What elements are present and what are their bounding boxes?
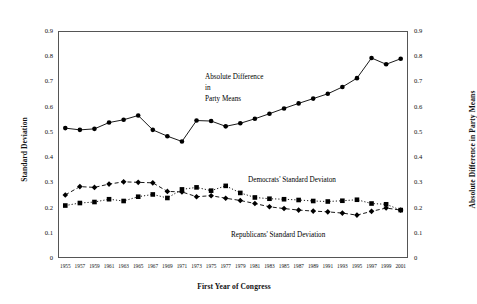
absolute-difference-label-line: Party Means xyxy=(205,94,263,105)
y-tick-right-0.8: 0.8 xyxy=(414,52,436,59)
y-tick-right-0.7: 0.7 xyxy=(414,77,436,84)
y-tick-left-0: 0 xyxy=(33,254,53,261)
y-tick-right-0.6: 0.6 xyxy=(414,103,436,110)
y-axis-right-title: Absolute Difference in Party Means xyxy=(468,75,477,225)
x-axis-title: First Year of Congress xyxy=(0,282,468,291)
democrats-label: Democrats' Standard Deviaton xyxy=(248,176,336,184)
y-tick-left-0.6: 0.6 xyxy=(33,103,53,110)
x-tick-2001: 2001 xyxy=(390,263,412,269)
y-axis-left-title: Standard Deviation xyxy=(20,95,29,205)
y-tick-right-0.9: 0.9 xyxy=(414,27,436,34)
republicans-label: Republicans' Standard Deviation xyxy=(231,231,325,239)
absolute-difference-label-line: Absolute Difference xyxy=(205,72,263,83)
y-tick-left-0.4: 0.4 xyxy=(33,153,53,160)
y-tick-right-0.3: 0.3 xyxy=(414,178,436,185)
y-tick-left-0.5: 0.5 xyxy=(33,128,53,135)
y-tick-right-0: 0 xyxy=(414,254,436,261)
plot-area xyxy=(58,31,408,258)
y-tick-right-0.1: 0.1 xyxy=(414,229,436,236)
y-tick-left-0.7: 0.7 xyxy=(33,77,53,84)
y-tick-left-0.2: 0.2 xyxy=(33,204,53,211)
absolute-difference-label: Absolute DifferenceinParty Means xyxy=(205,72,263,105)
y-tick-right-0.2: 0.2 xyxy=(414,204,436,211)
y-tick-right-0.4: 0.4 xyxy=(414,153,436,160)
absolute-difference-label-line: in xyxy=(205,83,263,94)
y-tick-left-0.9: 0.9 xyxy=(33,27,53,34)
y-tick-left-0.3: 0.3 xyxy=(33,178,53,185)
y-tick-right-0.5: 0.5 xyxy=(414,128,436,135)
y-tick-left-0.8: 0.8 xyxy=(33,52,53,59)
y-tick-left-0.1: 0.1 xyxy=(33,229,53,236)
